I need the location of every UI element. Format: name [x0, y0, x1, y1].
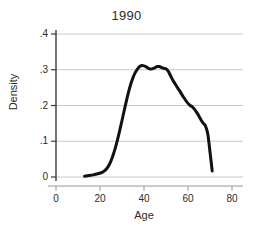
- x-tick-label: 20: [88, 193, 112, 204]
- x-tick-label: 40: [132, 193, 156, 204]
- x-axis-label: Age: [56, 209, 232, 221]
- x-tick-label: 80: [220, 193, 244, 204]
- axis-ticks: [51, 34, 232, 191]
- y-tick-label: .1: [22, 135, 48, 146]
- y-tick-label: .4: [22, 28, 48, 39]
- gridlines: [56, 34, 243, 177]
- y-tick-label: .3: [22, 64, 48, 75]
- y-tick-label: .2: [22, 100, 48, 111]
- density-chart-figure: 1990 Density 0.1.2.3.4 020406080 Age: [0, 0, 253, 233]
- density-curve-series: [85, 65, 213, 176]
- x-tick-label: 0: [44, 193, 68, 204]
- y-tick-label: 0: [22, 171, 48, 182]
- x-tick-label: 60: [176, 193, 200, 204]
